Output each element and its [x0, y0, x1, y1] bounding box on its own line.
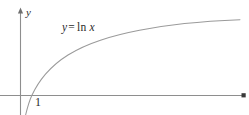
equation-argument: x: [89, 21, 94, 33]
x-axis-end-marker: [242, 93, 246, 97]
function-graph-figure: y 1 y=ln x: [0, 0, 249, 115]
equation-operator: =: [67, 21, 76, 33]
x-axis-tick-label-1: 1: [35, 96, 41, 108]
equation-function: ln: [76, 21, 86, 33]
curve-equation-label: y=ln x: [62, 22, 95, 34]
y-axis-arrowhead-icon: [18, 8, 23, 14]
y-axis-label: y: [26, 7, 31, 18]
log-curve-path: [26, 20, 240, 115]
